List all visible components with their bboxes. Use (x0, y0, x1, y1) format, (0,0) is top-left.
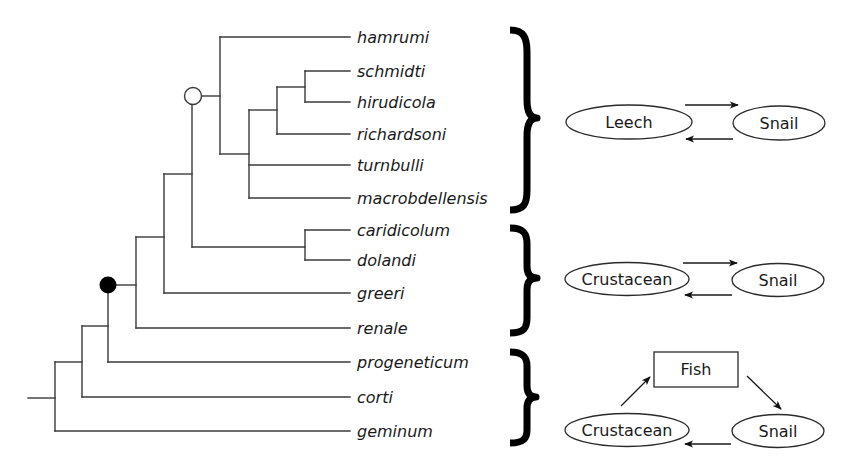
phylogenetic-tree (28, 37, 350, 431)
taxon-label: dolandi (357, 251, 416, 270)
host-leech-label: Leech (605, 113, 652, 132)
phylogeny-figure: hamrumi schmidti hirudicola richardsoni … (0, 0, 855, 465)
taxon-label: greeri (357, 284, 405, 303)
host-snail-label: Snail (759, 422, 798, 441)
taxon-label: turnbulli (357, 156, 424, 175)
brace-fish-group (510, 352, 536, 443)
taxon-label: renale (357, 319, 408, 338)
group-braces (510, 30, 537, 443)
taxon-label: caridicolum (357, 221, 450, 240)
taxon-label: hamrumi (357, 28, 430, 47)
taxon-label: macrobdellensis (357, 189, 488, 208)
taxon-label: schmidti (357, 62, 426, 81)
filled-circle-node-marker (100, 277, 117, 294)
taxon-label: corti (357, 388, 393, 407)
taxon-label: hirudicola (357, 93, 436, 112)
arrow-down-right-icon (747, 376, 781, 409)
brace-crustacean-group (510, 228, 537, 333)
host-crustacean-label: Crustacean (582, 270, 673, 289)
taxon-label: geminum (357, 422, 433, 441)
host-fish-label: Fish (681, 360, 712, 379)
life-cycle-leech-snail: Leech Snail (566, 105, 825, 140)
arrow-up-right-icon (621, 377, 650, 406)
host-crustacean-label: Crustacean (582, 421, 673, 440)
host-snail-label: Snail (759, 271, 798, 290)
brace-leech-group (510, 30, 537, 210)
taxon-label: richardsoni (357, 125, 447, 144)
open-circle-node-marker (185, 88, 202, 105)
life-cycle-crustacean-snail: Crustacean Snail (565, 263, 824, 297)
life-cycle-crustacean-fish-snail: Fish Crustacean Snail (565, 352, 824, 448)
host-snail-label: Snail (760, 114, 799, 133)
taxon-label: progeneticum (356, 353, 469, 372)
taxon-labels: hamrumi schmidti hirudicola richardsoni … (356, 28, 488, 441)
